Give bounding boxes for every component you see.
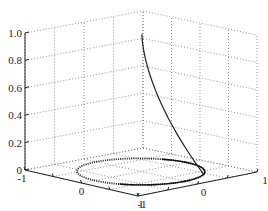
3d-line-plot: 00.20.40.60.81.0-101-101	[0, 0, 268, 211]
grid-lines	[25, 11, 257, 196]
y-tick-label: 1	[262, 174, 268, 186]
y-tick-label: 0	[201, 186, 207, 198]
z-tick-label: 0.4	[8, 109, 22, 121]
x-tick-label: -1	[17, 172, 26, 184]
z-tick-label: 1.0	[8, 27, 22, 39]
data-curves	[77, 34, 205, 185]
z-tick-label: 0.6	[8, 82, 22, 94]
z-tick-label: 0.8	[8, 54, 22, 66]
y-tick-label: -1	[137, 198, 146, 210]
plot-canvas: 00.20.40.60.81.0-101-101	[0, 0, 268, 211]
x-tick-label: 0	[79, 185, 85, 197]
z-tick-label: 0.2	[8, 137, 22, 149]
